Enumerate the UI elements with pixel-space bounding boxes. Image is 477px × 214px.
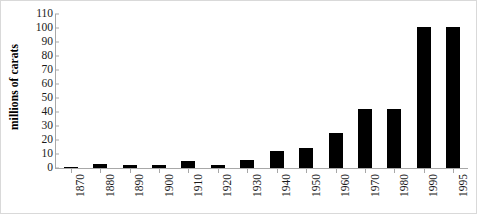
- x-axis-tick-label: 1910: [193, 174, 205, 197]
- y-axis-tick-label: 60: [42, 78, 54, 90]
- x-axis-tick-mark: [218, 169, 219, 173]
- y-axis-tick-label: 40: [42, 106, 54, 118]
- bar: [240, 160, 254, 168]
- bar: [358, 109, 372, 168]
- y-axis-tick-mark: [55, 56, 59, 57]
- y-axis-tick-label: 90: [42, 36, 54, 48]
- x-axis-tick-label: 1930: [252, 174, 264, 197]
- y-axis-tick-mark: [55, 14, 59, 15]
- plot-area: [56, 14, 468, 168]
- bar: [329, 133, 343, 168]
- bar: [417, 27, 431, 168]
- x-axis-tick-mark: [71, 169, 72, 173]
- x-axis-tick-label: 1900: [164, 174, 176, 197]
- bar: [299, 148, 313, 168]
- y-axis-tick-mark: [55, 168, 59, 169]
- y-axis-tick-label: 50: [42, 92, 54, 104]
- y-axis-tick-label: 80: [42, 50, 54, 62]
- x-axis-line: [55, 168, 468, 169]
- y-axis-tick-mark: [55, 98, 59, 99]
- x-axis-tick-mark: [453, 169, 454, 173]
- bar: [270, 151, 284, 168]
- x-axis-tick-label: 1980: [399, 174, 411, 197]
- y-axis-title-label: millions of carats: [8, 44, 20, 130]
- bar: [181, 161, 195, 168]
- y-axis-tick-label: 0: [47, 162, 53, 174]
- bar: [123, 165, 137, 168]
- x-axis-tick-mark: [306, 169, 307, 173]
- x-axis-tick-mark: [247, 169, 248, 173]
- y-axis-tick-mark: [55, 84, 59, 85]
- y-axis-tick-label: 100: [36, 22, 53, 34]
- x-axis-tick-label: 1950: [311, 174, 323, 197]
- bar: [446, 27, 460, 168]
- y-axis-tick-label: 110: [36, 8, 53, 20]
- x-axis-tick-mark: [100, 169, 101, 173]
- x-axis-tick-label: 1870: [75, 174, 87, 197]
- x-axis-tick-label: 1970: [370, 174, 382, 197]
- x-axis-tick-label: 1940: [281, 174, 293, 197]
- x-axis-tick-labels: 1870188018901900191019201930194019501960…: [56, 174, 468, 214]
- y-axis-tick-mark: [55, 126, 59, 127]
- y-axis-tick-label: 30: [42, 120, 54, 132]
- y-axis-tick-label: 20: [42, 134, 54, 146]
- x-axis-tick-label: 1995: [458, 174, 470, 197]
- x-axis-tick-mark: [277, 169, 278, 173]
- y-axis-tick-mark: [55, 42, 59, 43]
- bar: [152, 165, 166, 168]
- x-axis-tick-mark: [424, 169, 425, 173]
- y-axis-tick-label: 70: [42, 64, 54, 76]
- y-axis-tick-labels: 0102030405060708090100110: [23, 14, 53, 168]
- bar: [211, 165, 225, 169]
- bar: [64, 167, 78, 168]
- y-axis-tick-mark: [55, 140, 59, 141]
- x-axis-tick-mark: [336, 169, 337, 173]
- y-axis-tick-mark: [55, 70, 59, 71]
- y-axis-tick-mark: [55, 28, 59, 29]
- x-axis-tick-mark: [365, 169, 366, 173]
- x-axis-tick-label: 1880: [105, 174, 117, 197]
- x-axis-tick-mark: [130, 169, 131, 173]
- x-axis-tick-mark: [188, 169, 189, 173]
- y-axis-tick-mark: [55, 112, 59, 113]
- bar-chart: millions of carats 010203040506070809010…: [0, 0, 477, 214]
- x-axis-tick-mark: [159, 169, 160, 173]
- x-axis-tick-label: 1920: [222, 174, 234, 197]
- y-axis-tick-label: 10: [42, 148, 54, 160]
- bar: [93, 164, 107, 168]
- x-axis-tick-mark: [394, 169, 395, 173]
- y-axis-tick-mark: [55, 154, 59, 155]
- x-axis-tick-label: 1990: [428, 174, 440, 197]
- bar: [387, 109, 401, 168]
- x-axis-tick-label: 1890: [134, 174, 146, 197]
- x-axis-tick-label: 1960: [340, 174, 352, 197]
